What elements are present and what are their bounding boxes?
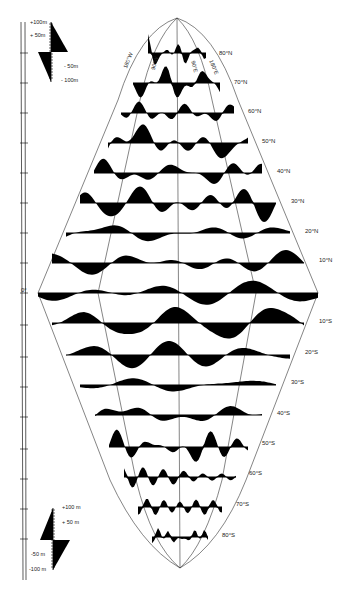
scale-bottom-label: +100 m xyxy=(62,504,81,510)
latitude-label: 30°N xyxy=(291,198,304,205)
latitude-label: 30°S xyxy=(291,379,304,386)
latitude-label: 40°S xyxy=(277,410,290,417)
profile-band xyxy=(66,341,290,368)
scale-bottom-label: -50 m xyxy=(31,551,45,557)
scale-top-label: - 50m xyxy=(64,63,78,69)
latitude-label: 80°S xyxy=(222,532,235,539)
profile-band xyxy=(138,499,222,515)
left-axis-bar xyxy=(20,22,28,580)
geoid-profile-diagram: 80°N70°N60°N50°N40°N30°N20°N10°N10°S20°S… xyxy=(0,0,347,590)
scale-top xyxy=(38,22,68,82)
profile-band xyxy=(95,406,262,421)
latitude-label: 10°S xyxy=(319,318,332,325)
diagram-canvas xyxy=(0,0,347,590)
profile-band xyxy=(80,378,276,391)
scale-top-label: +100m xyxy=(30,19,47,25)
latitude-label: 10°N xyxy=(319,257,332,264)
latitude-label: 50°S xyxy=(262,440,275,447)
latitude-label: 70°S xyxy=(236,501,249,508)
profile-band xyxy=(133,66,220,97)
scale-bottom xyxy=(40,508,70,570)
profile-bands xyxy=(38,34,318,543)
scale-top-label: + 50m xyxy=(30,32,45,38)
latitude-label: 50°N xyxy=(262,138,275,145)
latitude-label: 60°N xyxy=(248,108,261,115)
scale-bottom-label: + 50 m xyxy=(62,519,79,525)
latitude-label: 20°N xyxy=(305,228,318,235)
profile-band xyxy=(52,307,304,338)
scale-top-label: - 100m xyxy=(61,77,78,83)
profile-band xyxy=(124,468,236,488)
scale-bottom-label: -100 m xyxy=(29,566,46,572)
latitude-label: 70°N xyxy=(234,79,247,86)
latitude-label: 40°N xyxy=(277,168,290,175)
profile-band xyxy=(109,430,248,462)
profile-band xyxy=(38,281,318,305)
latitude-label: 80°N xyxy=(219,50,232,57)
latitude-label: 60°S xyxy=(249,470,262,477)
latitude-label: 20°S xyxy=(305,349,318,356)
equator-label: 0° xyxy=(21,287,27,294)
